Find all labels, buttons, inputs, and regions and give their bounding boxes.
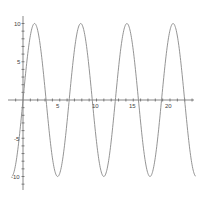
x-tick-label-15: 15: [129, 103, 136, 109]
y-tick-label-neg10: -10: [11, 174, 20, 180]
y-tick-label-5: 5: [17, 59, 21, 65]
sine-plot: 5 10 15 20 10 5 -5 -10: [0, 0, 209, 203]
y-tick-label-10: 10: [14, 21, 21, 27]
y-tick-label-neg5: -5: [14, 136, 20, 142]
x-axis: [8, 99, 194, 102]
x-tick-label-20: 20: [165, 103, 172, 109]
x-tick-label-5: 5: [56, 103, 60, 109]
x-tick-label-10: 10: [92, 103, 99, 109]
